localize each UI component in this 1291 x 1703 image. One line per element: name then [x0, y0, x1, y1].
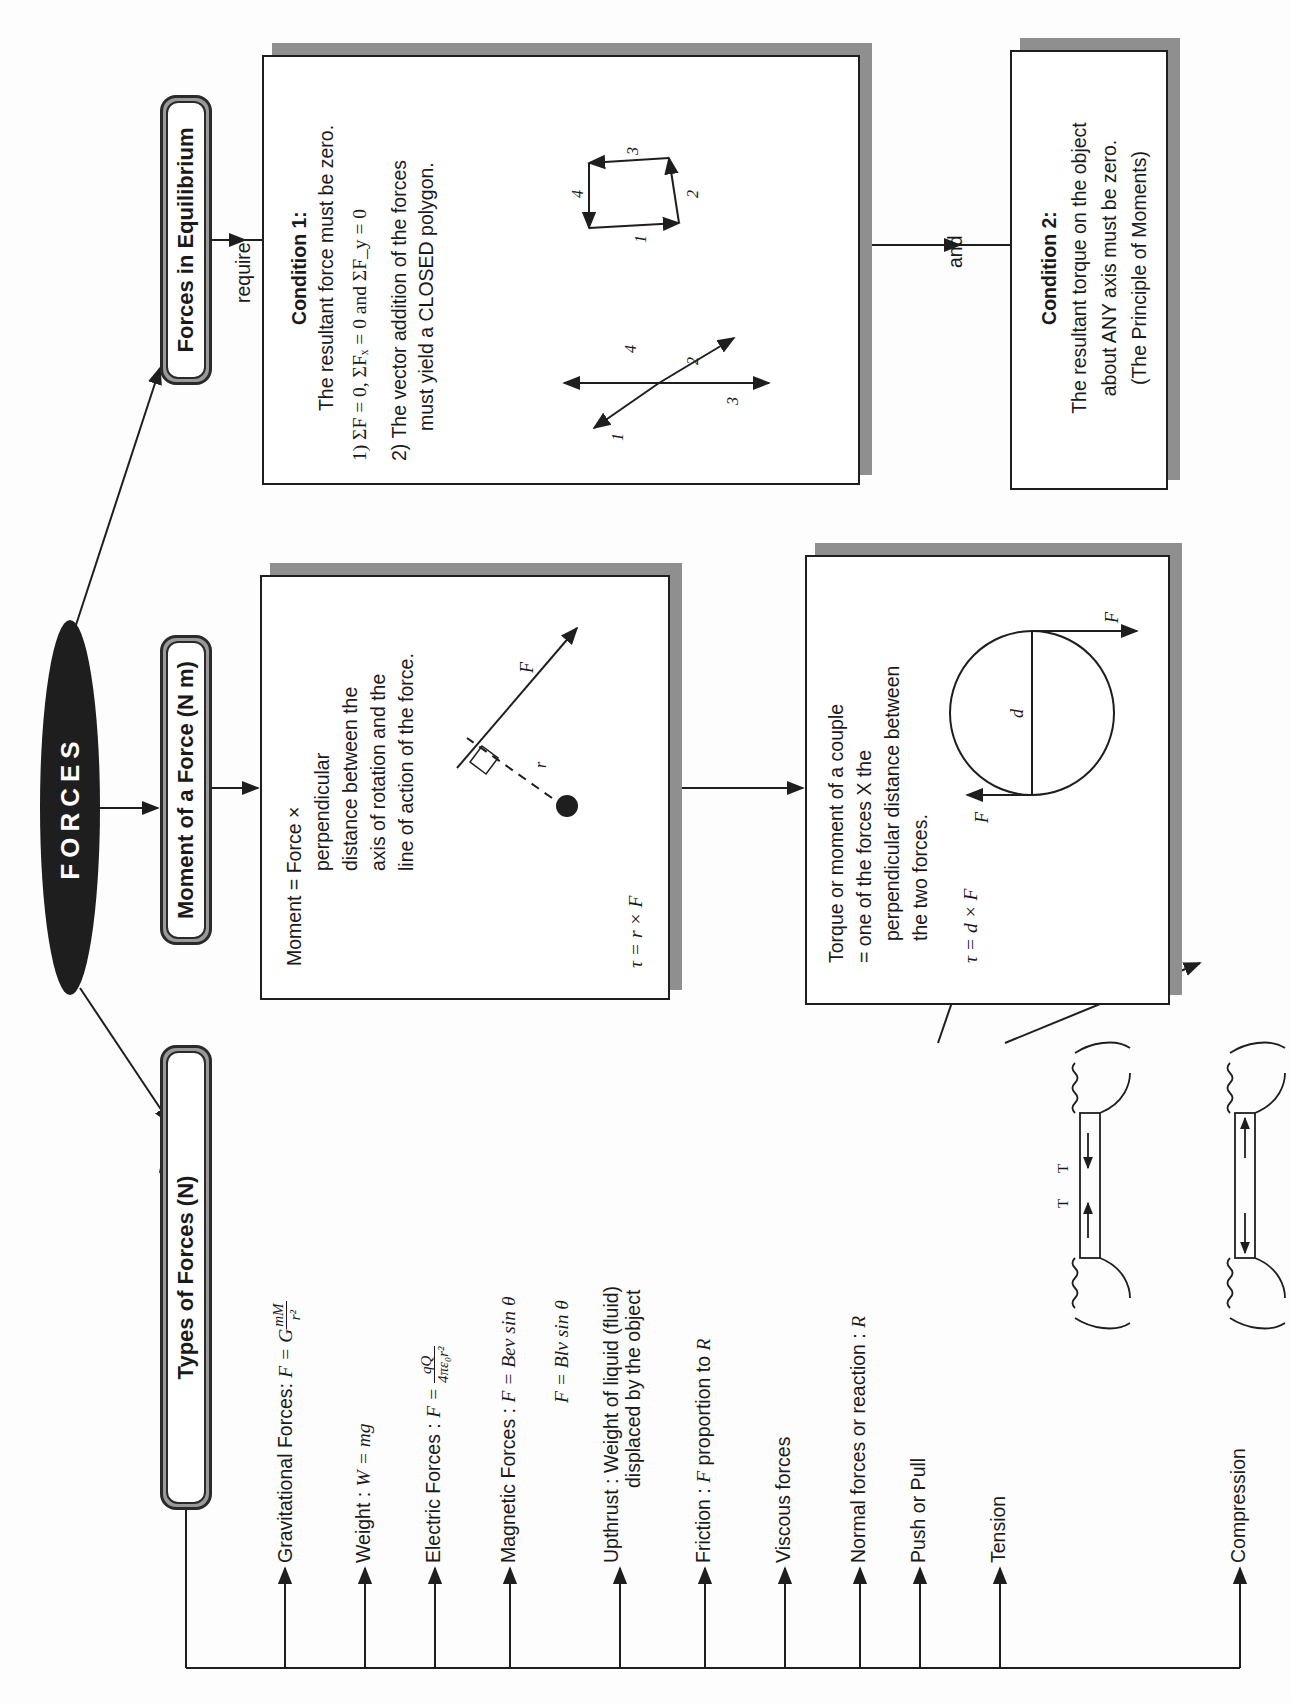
- and-label: and: [942, 235, 969, 268]
- vector-label-3a: 3: [724, 397, 742, 405]
- moment-diagram: [262, 573, 672, 998]
- couple-box: Torque or moment of a couple = one of th…: [805, 555, 1170, 1005]
- moment-force-label: F: [517, 662, 538, 673]
- couple-diameter: d: [1007, 709, 1028, 718]
- tension-label-left: T: [1055, 1199, 1072, 1208]
- vector-label-3b: 3: [624, 147, 642, 155]
- condition1-box: Condition 1: The resultant force must be…: [262, 55, 860, 485]
- vector-label-1b: 1: [632, 235, 650, 243]
- vector-label-1a: 1: [609, 433, 627, 441]
- moment-formula: τ = r × F: [622, 896, 649, 968]
- moment-definition-box: Moment = Force × perpendicular distance …: [260, 575, 670, 1000]
- vector-polygon-diagram: [264, 53, 862, 483]
- rotated-page: FORCES Types of Forces (N) Moment of a F…: [0, 0, 1291, 1703]
- vector-label-4b: 4: [569, 190, 587, 198]
- vector-label-4a: 4: [622, 345, 640, 353]
- require-label: require: [230, 242, 257, 303]
- condition2-box: Condition 2: The resultant torque on the…: [1010, 50, 1168, 490]
- couple-force-left: F: [972, 812, 993, 823]
- vector-label-2a: 2: [684, 357, 702, 365]
- cond2-box-shadow: [1168, 38, 1180, 480]
- moment-radius-label: r: [532, 762, 550, 768]
- couple-force-right: F: [1102, 612, 1123, 623]
- vector-label-2b: 2: [684, 190, 702, 198]
- tension-label-right: T: [1055, 1164, 1072, 1173]
